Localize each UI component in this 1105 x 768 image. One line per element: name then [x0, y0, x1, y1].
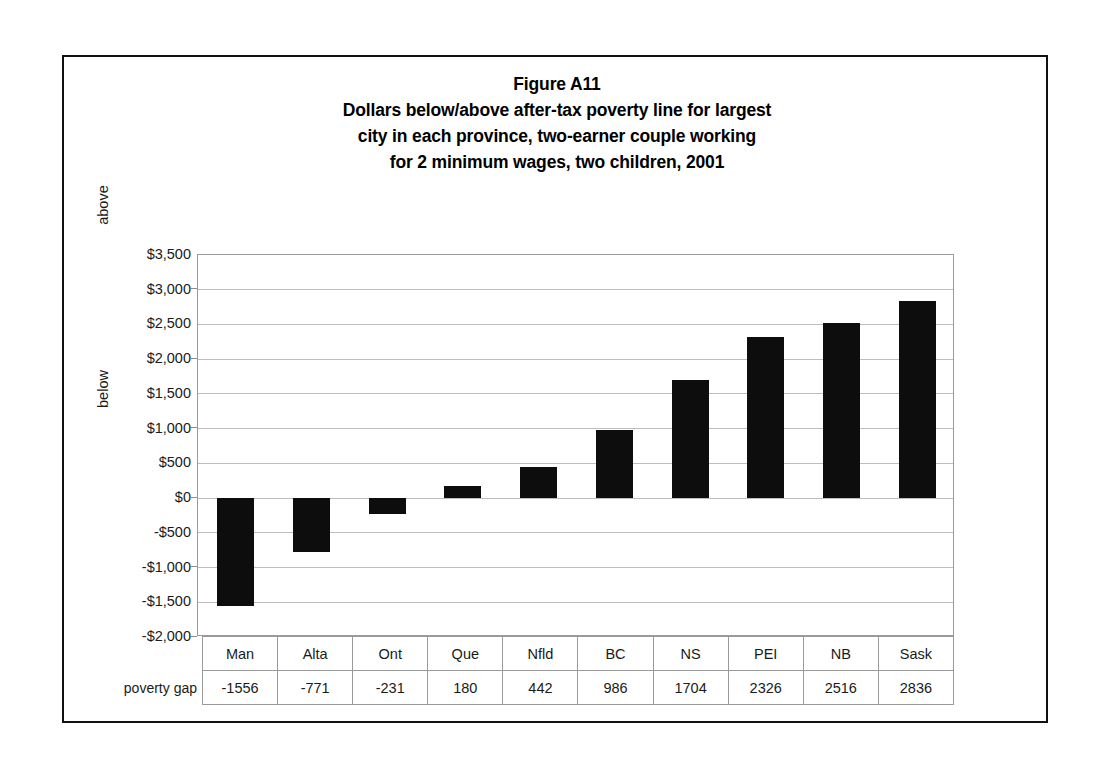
bar-man: [217, 498, 254, 606]
table-cell-category: Man: [203, 637, 278, 671]
y-axis-tick-label: -$1,000: [142, 560, 191, 574]
table-cell-value: 2326: [728, 671, 803, 705]
table-row-header: poverty gap: [120, 671, 203, 705]
title-line-4: for 2 minimum wages, two children, 2001: [64, 149, 1050, 175]
bar-ns: [672, 380, 709, 498]
y-axis-tick-labels: $3,500$3,000$2,500$2,000$1,500$1,000$500…: [104, 254, 197, 636]
table-cell-category: Alta: [278, 637, 353, 671]
table-cell-value: 1704: [653, 671, 728, 705]
table-cell-value: 442: [503, 671, 578, 705]
y-axis-tick-label: $0: [175, 490, 191, 504]
table-cell-category: PEI: [728, 637, 803, 671]
bar-nb: [823, 323, 860, 498]
table-cell-value: 986: [578, 671, 653, 705]
y-axis-tick-label: $500: [159, 455, 191, 469]
bar-que: [444, 486, 481, 499]
table-row-categories: ManAltaOntQueNfldBCNSPEINBSask: [120, 637, 954, 671]
y-axis-tick-label: $1,500: [147, 386, 191, 400]
table-cell-value: 180: [428, 671, 503, 705]
table-cell-category: Nfld: [503, 637, 578, 671]
axis-group-label-below: below: [95, 349, 111, 429]
bar-sask: [899, 301, 936, 498]
y-axis-tick-label: -$1,500: [142, 594, 191, 608]
table-cell-category: BC: [578, 637, 653, 671]
chart-title: Figure A11 Dollars below/above after-tax…: [64, 71, 1050, 175]
table-cell-value: 2836: [878, 671, 953, 705]
y-axis-tick-label: $3,500: [147, 247, 191, 261]
table-cell-category: NS: [653, 637, 728, 671]
bar-bc: [596, 430, 633, 498]
y-axis-tick-label: $2,500: [147, 316, 191, 330]
table-cell-category: Ont: [353, 637, 428, 671]
table-cell-category: NB: [803, 637, 878, 671]
table-cell-category: Que: [428, 637, 503, 671]
figure-frame: Figure A11 Dollars below/above after-tax…: [62, 55, 1048, 723]
title-line-2: Dollars below/above after-tax poverty li…: [64, 97, 1050, 123]
table-corner-blank: [120, 637, 203, 671]
bar-alta: [293, 498, 330, 552]
gridline: [198, 289, 953, 290]
table-cell-value: -771: [278, 671, 353, 705]
table-cell-category: Sask: [878, 637, 953, 671]
gridline: [198, 602, 953, 603]
y-axis-tick-label: $2,000: [147, 351, 191, 365]
bar-nfld: [520, 467, 557, 498]
title-line-1: Figure A11: [64, 71, 1050, 97]
table-cell-value: -231: [353, 671, 428, 705]
y-axis-tick-label: -$500: [154, 525, 191, 539]
y-axis-tick-label: $3,000: [147, 282, 191, 296]
bar-pei: [747, 337, 784, 499]
bar-ont: [369, 498, 406, 514]
table-cell-value: 2516: [803, 671, 878, 705]
y-axis-tick-label: $1,000: [147, 421, 191, 435]
table-row-values: poverty gap-1556-771-2311804429861704232…: [120, 671, 954, 705]
plot-area: [197, 254, 954, 636]
title-line-3: city in each province, two-earner couple…: [64, 123, 1050, 149]
data-table: ManAltaOntQueNfldBCNSPEINBSask poverty g…: [120, 636, 954, 705]
table-cell-value: -1556: [203, 671, 278, 705]
axis-group-label-above: above: [95, 165, 111, 245]
gridline: [198, 567, 953, 568]
